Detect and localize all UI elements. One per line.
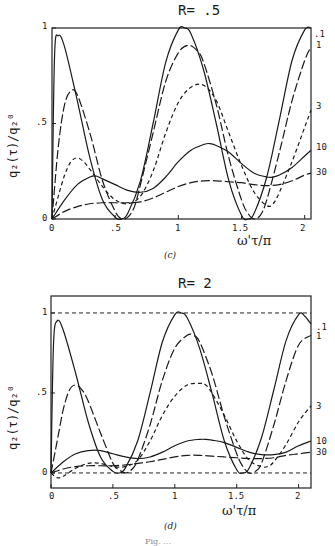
series-line-.1 — [51, 312, 311, 474]
series-line-1 — [51, 334, 311, 473]
series-line-10 — [51, 439, 311, 473]
axes-frame — [51, 296, 311, 488]
